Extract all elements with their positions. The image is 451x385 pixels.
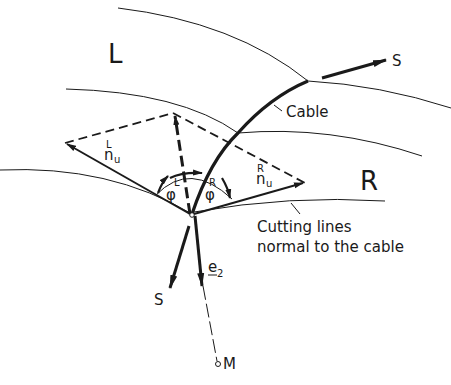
- left-normal-sub: u: [114, 154, 120, 165]
- left-normal-base: n: [104, 146, 114, 164]
- center-point-m: [216, 362, 221, 367]
- cutting-line-top-right: [308, 81, 451, 108]
- resultant-vector: [175, 116, 190, 214]
- node-point: [190, 213, 195, 218]
- cutting-line-middle: [66, 89, 238, 133]
- region-right-label: R: [360, 166, 378, 196]
- center-point-label: M: [223, 355, 236, 373]
- e2-vector: [195, 216, 202, 286]
- left-angle-label: φ: [166, 186, 176, 204]
- cable-force-diagram: L R Cable S S Cutting lines normal to th…: [0, 0, 451, 385]
- right-normal-sub: u: [266, 178, 272, 189]
- right-angle-arc: [222, 178, 230, 198]
- dashed-left: [65, 113, 173, 143]
- e2-base: e: [208, 258, 217, 276]
- region-left-label: L: [108, 39, 123, 69]
- e2-sub: 2: [217, 268, 223, 279]
- bottom-force-vector: [170, 226, 189, 288]
- cutting-lines-label-2: normal to the cable: [257, 238, 404, 256]
- cable-leader: [274, 105, 282, 111]
- top-force-label: S: [392, 52, 402, 70]
- cutting-line-middle-right: [238, 131, 422, 156]
- cutting-line-top: [118, 8, 308, 81]
- cutting-lines-label-1: Cutting lines: [257, 218, 352, 236]
- radius-line: [203, 286, 217, 361]
- top-force-vector: [322, 60, 386, 78]
- right-normal-base: n: [256, 170, 266, 188]
- cutting-line-lower: [0, 170, 192, 214]
- cutting-lines-leader: [291, 203, 300, 214]
- bottom-force-label: S: [154, 291, 164, 309]
- cable-label: Cable: [286, 103, 329, 121]
- right-angle-label: φ: [205, 186, 215, 204]
